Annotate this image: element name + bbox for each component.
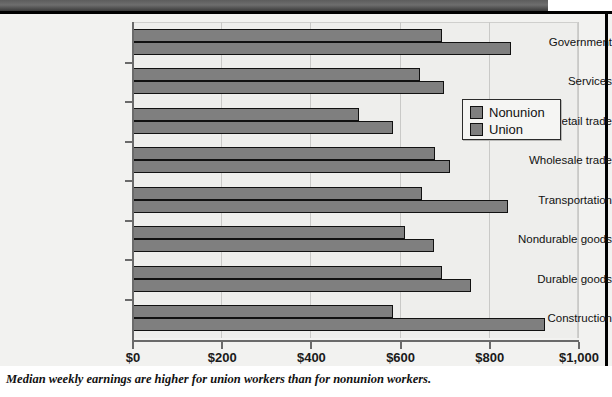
x-tick-label-800: $800 bbox=[475, 350, 504, 365]
x-tick-label-1000: $1,000 bbox=[559, 350, 599, 365]
legend-label-nonunion: Nonunion bbox=[489, 105, 545, 120]
x-axis-line bbox=[132, 340, 579, 342]
chart-legend: Nonunion Union bbox=[462, 99, 561, 140]
figure-container: $0$200$400$600$800$1,000 GovernmentServi… bbox=[0, 0, 612, 397]
gridline-1000 bbox=[578, 22, 579, 338]
category-label-construction: Construction bbox=[486, 312, 612, 324]
bar-union-services bbox=[132, 81, 444, 94]
bar-union-transportation bbox=[132, 200, 508, 213]
category-label-services: Services bbox=[486, 75, 612, 87]
bar-nonunion-retail-trade bbox=[132, 108, 359, 121]
x-tick-label-200: $200 bbox=[208, 350, 237, 365]
category-label-government: Government bbox=[486, 36, 612, 48]
y-tick-7 bbox=[125, 299, 132, 301]
bar-nonunion-government bbox=[132, 29, 442, 42]
legend-swatch-nonunion bbox=[470, 106, 483, 119]
legend-label-union: Union bbox=[489, 122, 523, 137]
bar-union-government bbox=[132, 42, 511, 55]
bar-nonunion-wholesale-trade bbox=[132, 147, 435, 160]
x-tick-label-600: $600 bbox=[386, 350, 415, 365]
bar-union-retail-trade bbox=[132, 121, 393, 134]
bar-union-nondurable-goods bbox=[132, 239, 434, 252]
x-tick-400 bbox=[310, 342, 312, 349]
figure-caption: Median weekly earnings are higher for un… bbox=[6, 372, 566, 387]
bar-union-durable-goods bbox=[132, 279, 471, 292]
legend-swatch-union bbox=[470, 123, 483, 136]
y-axis-line bbox=[132, 22, 134, 340]
category-label-wholesale-trade: Wholesale trade bbox=[486, 154, 612, 166]
plot-area bbox=[132, 22, 578, 338]
y-tick-4 bbox=[125, 180, 132, 182]
gridline-800 bbox=[489, 22, 490, 338]
y-tick-5 bbox=[125, 220, 132, 222]
y-tick-1 bbox=[125, 62, 132, 64]
bar-union-construction bbox=[132, 318, 545, 331]
x-tick-1000 bbox=[578, 342, 580, 349]
bar-nonunion-durable-goods bbox=[132, 266, 442, 279]
header-band bbox=[0, 0, 548, 11]
x-tick-label-400: $400 bbox=[297, 350, 326, 365]
bar-nonunion-services bbox=[132, 68, 420, 81]
category-label-nondurable-goods: Nondurable goods bbox=[486, 233, 612, 245]
category-label-durable-goods: Durable goods bbox=[486, 273, 612, 285]
x-tick-800 bbox=[489, 342, 491, 349]
bar-nonunion-construction bbox=[132, 305, 393, 318]
bar-nonunion-nondurable-goods bbox=[132, 226, 405, 239]
legend-item-union: Union bbox=[470, 121, 523, 138]
x-tick-0 bbox=[132, 342, 134, 349]
header-band-right-filler bbox=[548, 0, 612, 11]
y-tick-3 bbox=[125, 141, 132, 143]
bar-nonunion-transportation bbox=[132, 187, 422, 200]
x-tick-600 bbox=[400, 342, 402, 349]
category-label-transportation: Transportation bbox=[486, 194, 612, 206]
x-tick-label-0: $0 bbox=[126, 350, 140, 365]
bar-union-wholesale-trade bbox=[132, 160, 450, 173]
x-tick-200 bbox=[221, 342, 223, 349]
y-tick-6 bbox=[125, 259, 132, 261]
y-tick-2 bbox=[125, 101, 132, 103]
legend-item-nonunion: Nonunion bbox=[470, 104, 545, 121]
